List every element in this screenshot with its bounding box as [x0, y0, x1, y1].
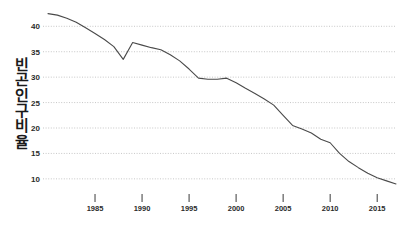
- x-axis-tick-labels: 1985199019952000200520102015: [0, 0, 405, 231]
- x-tick-label-1985: 1985: [75, 204, 115, 213]
- x-tick-label-1995: 1995: [169, 204, 209, 213]
- x-tick-label-2010: 2010: [310, 204, 350, 213]
- x-tick-label-2005: 2005: [263, 204, 303, 213]
- x-tick-label-2000: 2000: [216, 204, 256, 213]
- x-tick-label-1990: 1990: [122, 204, 162, 213]
- x-tick-label-2015: 2015: [357, 204, 397, 213]
- poverty-rate-line-chart: 빈 곤 인 구 비 율 40353025201510 1985199019952…: [0, 0, 405, 231]
